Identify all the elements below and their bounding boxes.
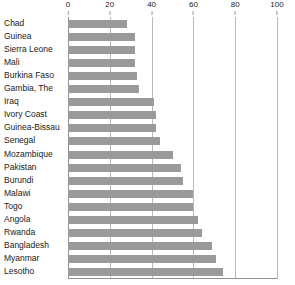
bar-row [68,164,277,172]
bar-row [68,137,277,145]
x-axis-tick: 80 [231,0,240,15]
bar-row [68,190,277,198]
category-label: Iraq [4,97,66,106]
x-axis-tick-label: 20 [105,0,114,10]
bar [68,98,154,106]
y-axis-labels: ChadGuineaSierra LeoneMaliBurkina FasoGa… [0,17,66,279]
bar-row [68,33,277,41]
x-axis-tick: 40 [147,0,156,15]
category-label: Sierra Leone [4,45,66,54]
x-axis-tick-label: 80 [231,0,240,10]
category-label: Gambia, The [4,84,66,93]
x-axis-tick-mark [276,11,277,15]
x-axis-tick: 100 [270,0,283,15]
bar-row [68,59,277,67]
bar [68,151,173,159]
bar-row [68,46,277,54]
category-label: Pakistan [4,163,66,172]
bar [68,242,212,250]
bar [68,72,137,80]
x-axis: 020406080100 [68,0,277,18]
category-label: Lesotho [4,267,66,276]
bar [68,255,216,263]
category-label: Myanmar [4,254,66,263]
bar [68,124,156,132]
category-label: Guinea [4,32,66,41]
x-axis-tick-mark [151,11,152,15]
bar-row [68,20,277,28]
x-axis-tick-mark [235,11,236,15]
bar [68,164,181,172]
bar-row [68,268,277,276]
bar-row [68,124,277,132]
bar-row [68,85,277,93]
x-axis-tick: 60 [189,0,198,15]
bar [68,216,198,224]
bar [68,229,202,237]
bar [68,268,223,276]
x-axis-tick-label: 60 [189,0,198,10]
bar [68,203,193,211]
category-label: Togo [4,202,66,211]
bar [68,46,135,54]
bar [68,190,193,198]
bar [68,177,183,185]
category-label: Malawi [4,189,66,198]
bar [68,59,135,67]
x-axis-tick-label: 40 [147,0,156,10]
category-label: Ivory Coast [4,110,66,119]
category-label: Burkina Faso [4,71,66,80]
category-label: Burundi [4,176,66,185]
plot-area [68,17,277,279]
x-axis-tick-label: 100 [270,0,283,10]
category-label: Rwanda [4,228,66,237]
x-axis-tick-mark [67,11,68,15]
bar [68,33,135,41]
bar-row [68,72,277,80]
category-label: Senegal [4,136,66,145]
bar-row [68,203,277,211]
x-axis-tick: 0 [66,0,70,15]
bar-row [68,255,277,263]
bar-row [68,229,277,237]
bar [68,111,156,119]
bar [68,20,127,28]
category-label: Chad [4,19,66,28]
bar [68,85,139,93]
axis-baseline [68,278,277,279]
bar-row [68,216,277,224]
bar-row [68,111,277,119]
category-label: Guinea-Bissau [4,123,66,132]
category-label: Bangladesh [4,241,66,250]
x-axis-tick: 20 [105,0,114,15]
bar [68,137,160,145]
bar-series [68,17,277,279]
bar-row [68,151,277,159]
category-label: Mozambique [4,150,66,159]
bar-row [68,177,277,185]
gridline [277,17,278,279]
bar-chart: 020406080100 ChadGuineaSierra LeoneMaliB… [0,0,295,285]
category-label: Angola [4,215,66,224]
x-axis-tick-mark [193,11,194,15]
x-axis-tick-label: 0 [66,0,70,10]
bar-row [68,242,277,250]
x-axis-tick-mark [109,11,110,15]
bar-row [68,98,277,106]
category-label: Mali [4,58,66,67]
